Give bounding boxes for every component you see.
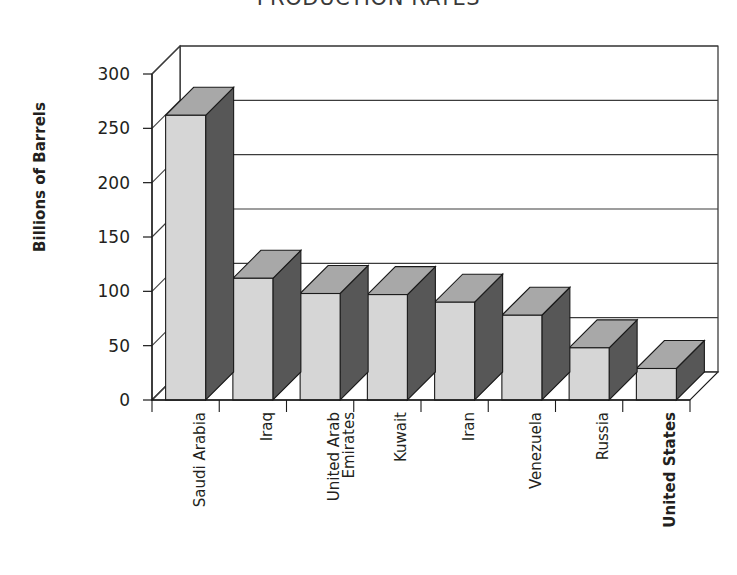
bar-column (166, 87, 234, 400)
x-category-label: Kuwait (394, 412, 409, 572)
x-category-label: United Arab Emirates (327, 412, 358, 572)
x-category-label: Saudi Arabia (193, 412, 208, 572)
x-category-label: Iraq (260, 412, 275, 572)
x-category-label: Venezuela (529, 412, 544, 572)
x-category-label: Iran (462, 412, 477, 572)
plot-area (0, 0, 737, 575)
x-category-label: United States (663, 412, 678, 572)
x-category-label: Russia (596, 412, 611, 572)
bar-column (367, 267, 435, 400)
chart-container: PRODUCTION RATES Billions of Barrels 050… (0, 0, 737, 575)
bar-column (233, 250, 301, 400)
bar-column (435, 274, 503, 400)
bar-column (300, 266, 368, 400)
